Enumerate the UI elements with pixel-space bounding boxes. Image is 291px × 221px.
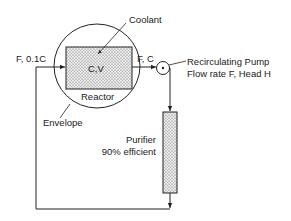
pump-label-line1: Recirculating Pump <box>187 56 269 67</box>
purifier-label-line1: Purifier <box>126 134 156 145</box>
envelope-label: Envelope <box>43 117 83 128</box>
outlet-label: F, C <box>137 53 154 64</box>
purifier-column <box>163 112 177 193</box>
pump-label-line2: Flow rate F, Head H <box>187 68 271 79</box>
cv-label: C,V <box>88 63 105 74</box>
purifier-label-line2: 90% efficient <box>102 146 157 157</box>
reactor-label: Reactor <box>81 91 114 102</box>
pump-leader <box>169 61 186 65</box>
coolant-label: Coolant <box>129 14 162 25</box>
reactor-loop-diagram: Coolant C,V Reactor Envelope F, 0.1C F, … <box>0 0 291 221</box>
inlet-label: F, 0.1C <box>16 53 46 64</box>
envelope-leader <box>60 104 70 118</box>
